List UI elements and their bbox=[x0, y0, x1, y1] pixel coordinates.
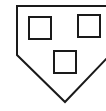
square-top-right bbox=[78, 15, 100, 37]
home-plate-diagram bbox=[0, 0, 106, 111]
square-top-left bbox=[29, 17, 51, 39]
square-bottom-center bbox=[54, 51, 76, 73]
pentagon-outline bbox=[17, 6, 106, 102]
